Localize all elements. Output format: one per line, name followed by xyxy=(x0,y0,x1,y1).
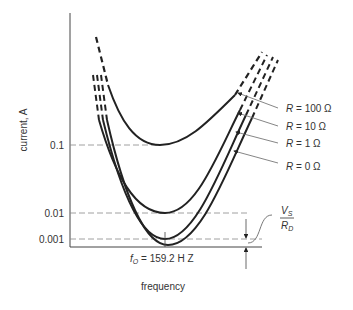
legend-r100: R = 100 Ω xyxy=(286,103,332,114)
resonance-label: fO = 159.2 H Z xyxy=(130,253,194,265)
legend-r0: R = 0 Ω xyxy=(286,161,321,172)
curve-r1-dashed-right xyxy=(246,57,273,115)
resonance-chart: 0.1 0.01 0.001 current, A fO = 159.2 H Z… xyxy=(0,0,353,310)
leader-r0 xyxy=(234,151,278,163)
y-axis-label: current, A xyxy=(18,108,29,151)
curve-r1-dashed xyxy=(97,75,103,120)
curve-r10 xyxy=(99,110,240,213)
curve-r100 xyxy=(108,85,235,145)
curve-r0 xyxy=(107,118,252,245)
y-tick-0.1: 0.1 xyxy=(50,140,64,151)
y-tick-0.001: 0.001 xyxy=(39,234,64,245)
curve-r0-dashed-right xyxy=(252,60,278,118)
legend-r10: R = 10 Ω xyxy=(286,121,327,132)
annotation-numerator: VS xyxy=(281,205,293,217)
y-tick-0.01: 0.01 xyxy=(45,208,65,219)
legend-r1: R = 1 Ω xyxy=(286,138,321,149)
curve-r10-dashed xyxy=(93,75,99,120)
x-axis-label: frequency xyxy=(141,281,185,292)
annotation-denominator: RD xyxy=(281,220,293,232)
